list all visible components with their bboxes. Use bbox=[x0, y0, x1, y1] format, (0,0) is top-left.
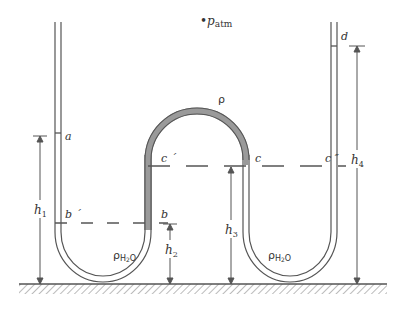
h4-arrow-up bbox=[354, 46, 360, 52]
rho-water-left-sub-o: O bbox=[130, 254, 136, 263]
h4-main: h bbox=[351, 153, 359, 167]
h3-arrow-up bbox=[228, 167, 234, 173]
h3-arrow-down bbox=[228, 278, 234, 284]
ground-hatching bbox=[19, 284, 387, 294]
point-d-label: d bbox=[341, 30, 348, 43]
dimensions bbox=[33, 46, 365, 284]
h2-sub: 2 bbox=[173, 250, 178, 259]
h1-arrow-up bbox=[37, 136, 43, 142]
h3-main: h bbox=[225, 223, 233, 237]
rho-water-right-main: ρ bbox=[268, 249, 275, 262]
h4-sub: 4 bbox=[359, 160, 364, 169]
point-c-prime-label: c ´ bbox=[161, 152, 177, 165]
point-a-label: a bbox=[65, 130, 72, 143]
p-atm-sub: atm bbox=[215, 19, 233, 29]
h3-sub: 3 bbox=[233, 230, 238, 239]
point-c-double-prime-label: c ″ bbox=[325, 152, 340, 165]
level-lines bbox=[55, 46, 346, 223]
rho-dense-label: ρ bbox=[218, 93, 225, 106]
h2-arrow-down bbox=[167, 278, 173, 284]
manometer-diagram: •patm ρ a b ´ b c ´ c c ″ d h1 h2 h3 h4 … bbox=[0, 0, 408, 309]
left-u-tube bbox=[55, 22, 151, 282]
left-u-tube-inner bbox=[61, 22, 145, 276]
point-c-label: c bbox=[255, 152, 261, 165]
h1-main: h bbox=[34, 203, 42, 217]
point-b-prime-label: b ´ bbox=[65, 208, 82, 221]
p-atm-bullet: • bbox=[200, 14, 207, 28]
h2-arrow-up bbox=[167, 224, 173, 230]
left-u-tube-outer bbox=[55, 22, 151, 282]
ground bbox=[19, 284, 387, 294]
rho-water-right-sub-o: O bbox=[285, 254, 291, 263]
h4-arrow-down bbox=[354, 278, 360, 284]
labels: •patm ρ a b ´ b c ´ c c ″ d h1 h2 h3 h4 … bbox=[34, 14, 364, 263]
h2-main: h bbox=[165, 243, 173, 257]
right-u-tube-inner bbox=[249, 22, 331, 276]
rho-water-left-label: ρH2O bbox=[113, 249, 136, 263]
rho-water-right-label: ρH2O bbox=[268, 249, 291, 263]
rho-water-left-main: ρ bbox=[113, 249, 120, 262]
h1-sub: 1 bbox=[42, 210, 47, 219]
p-atm-label: •patm bbox=[200, 14, 233, 29]
h1-arrow-down bbox=[37, 278, 43, 284]
point-b-label: b bbox=[161, 208, 168, 221]
